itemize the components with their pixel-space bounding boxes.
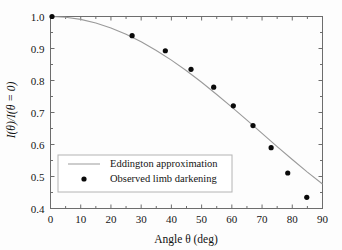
x-tick-label: 20 xyxy=(105,213,117,225)
chart-legend: Eddington approximationObserved limb dar… xyxy=(58,155,232,192)
legend-label: Eddington approximation xyxy=(110,158,218,169)
y-tick-label: 0.6 xyxy=(31,139,45,151)
y-tick-label: 0.9 xyxy=(31,43,45,55)
x-tick-label: 10 xyxy=(75,213,87,225)
x-tick-label: 30 xyxy=(136,213,148,225)
data-point xyxy=(49,14,54,19)
x-tick-label: 90 xyxy=(317,213,329,225)
x-tick-label: 70 xyxy=(257,213,269,225)
x-tick-label: 60 xyxy=(226,213,238,225)
data-point xyxy=(269,145,274,150)
y-tick-label: 0.4 xyxy=(31,203,45,215)
legend-dot-swatch xyxy=(81,176,86,181)
limb-darkening-figure: 0102030405060708090 0.40.50.60.70.80.91.… xyxy=(0,0,342,250)
x-tick-label: 0 xyxy=(48,213,54,225)
y-tick-label: 0.8 xyxy=(31,75,45,87)
y-axis-title: I(θ)/I(θ = 0) xyxy=(5,81,18,139)
legend-label: Observed limb darkening xyxy=(110,173,217,184)
data-point xyxy=(188,67,193,72)
x-tick-label: 80 xyxy=(287,213,299,225)
data-point xyxy=(130,33,135,38)
data-point xyxy=(285,170,290,175)
y-axis-title-text: I(θ)/I(θ = 0) xyxy=(5,81,18,139)
data-point xyxy=(231,103,236,108)
data-point xyxy=(304,195,309,200)
y-tick-label: 0.5 xyxy=(31,171,45,183)
data-point xyxy=(163,48,168,53)
data-point xyxy=(211,85,216,90)
plot-area: 0102030405060708090 0.40.50.60.70.80.91.… xyxy=(0,0,342,250)
y-tick-label: 1.0 xyxy=(31,11,45,23)
x-axis-title: Angle θ (deg) xyxy=(154,233,218,246)
x-tick-label: 50 xyxy=(196,213,208,225)
data-point xyxy=(250,123,255,128)
x-tick-label: 40 xyxy=(166,213,178,225)
y-tick-label: 0.7 xyxy=(31,107,45,119)
